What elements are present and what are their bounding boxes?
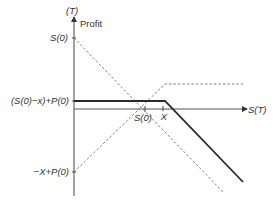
x-tick-label-s0: S(0) xyxy=(134,112,152,123)
y-tick-label-s0: S(0) xyxy=(50,32,68,43)
y-tick-label-mid: (S(0)−x)+P(0) xyxy=(11,95,69,106)
x-axis-label: S(T) xyxy=(248,104,266,115)
x-tick-label-x: X xyxy=(160,111,168,122)
long-put-line xyxy=(74,84,243,172)
y-axis-label: Profit xyxy=(80,18,103,29)
protective-put-line xyxy=(74,101,243,182)
y-axis-top-label: (T) xyxy=(66,5,78,16)
payoff-diagram: (T) Profit S(0) (S(0)−x)+P(0) −X+P(0) S(… xyxy=(0,0,280,201)
diagram-canvas: (T) Profit S(0) (S(0)−x)+P(0) −X+P(0) S(… xyxy=(0,0,280,201)
y-tick-label-low: −X+P(0) xyxy=(34,166,69,177)
